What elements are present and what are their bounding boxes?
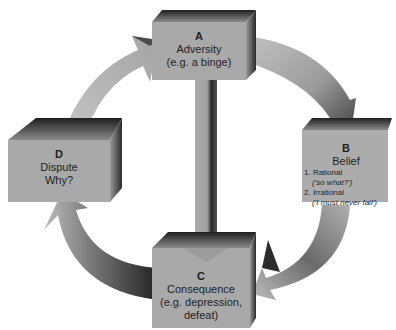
arrow-b-to-c — [252, 205, 350, 300]
node-d-subtitle: Why? — [8, 174, 110, 187]
node-c-subtitle2: defeat) — [152, 309, 250, 322]
node-b: B Belief 1. Rational ('so what?') 2. Irr… — [304, 142, 388, 208]
node-d-title: Dispute — [8, 161, 110, 174]
belief-item-irrational: 2. Irrational — [304, 188, 344, 197]
node-c: C Consequence (e.g. depression, defeat) — [152, 270, 250, 322]
node-c-subtitle: (e.g. depression, — [152, 296, 250, 309]
belief-example-rational: ('so what?') — [304, 178, 388, 188]
node-b-title: Belief — [304, 155, 388, 168]
arrow-c-to-d — [44, 192, 160, 300]
node-a-title: Adversity — [152, 43, 246, 56]
node-a: A Adversity (e.g. a binge) — [152, 30, 246, 69]
belief-item-rational: 1. Rational — [304, 168, 342, 177]
node-a-key: A — [152, 30, 246, 43]
belief-list: 1. Rational ('so what?') 2. Irrational (… — [304, 168, 388, 208]
node-d-key: D — [8, 148, 110, 161]
node-b-key: B — [304, 142, 388, 155]
belief-example-irrational: ('I must never fail') — [304, 198, 388, 208]
node-a-subtitle: (e.g. a binge) — [152, 56, 246, 69]
node-c-key: C — [152, 270, 250, 283]
node-d: D Dispute Why? — [8, 148, 110, 187]
node-c-title: Consequence — [152, 283, 250, 296]
